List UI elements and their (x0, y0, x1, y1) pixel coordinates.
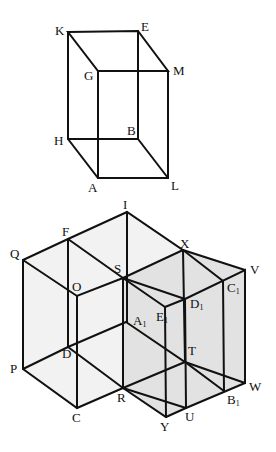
vertex-label-l: L (171, 179, 179, 192)
geometry-figures (0, 0, 276, 452)
vertex-label-o: O (72, 280, 81, 293)
vertex-label-d1: D1 (190, 297, 203, 312)
top-prism (68, 31, 168, 178)
subscript: 1 (236, 399, 240, 408)
vertex-label-r: R (117, 391, 126, 404)
vertex-label-e: E (141, 20, 149, 33)
diagram-canvas: K E G M H B A L I F Q X S V O C1 D1 E1 A… (0, 0, 276, 452)
subscript: 1 (199, 303, 203, 312)
vertex-label-k: K (55, 24, 64, 37)
vertex-label-a1: A1 (133, 314, 146, 329)
vertex-label-y: Y (160, 420, 169, 433)
vertex-label-m: M (173, 64, 185, 77)
vertex-label-i: I (123, 198, 127, 211)
subscript: 1 (142, 320, 146, 329)
vertex-label-x: X (180, 237, 189, 250)
vertex-label-e1-text: E (156, 309, 164, 324)
vertex-label-v: V (250, 263, 259, 276)
vertex-label-a: A (88, 181, 97, 194)
vertex-label-p: P (10, 362, 17, 375)
vertex-label-w: W (249, 380, 261, 393)
vertex-label-s: S (114, 262, 121, 275)
vertex-label-e1: E1 (156, 310, 168, 325)
subscript: 1 (236, 287, 240, 296)
vertex-label-c1: C1 (227, 281, 240, 296)
vertex-label-b1-text: B (227, 392, 236, 407)
vertex-label-d: D (62, 347, 71, 360)
vertex-label-h: H (54, 134, 63, 147)
vertex-label-g: G (84, 69, 93, 82)
vertex-label-b1: B1 (227, 393, 240, 408)
subscript: 1 (164, 316, 168, 325)
vertex-label-a1-text: A (133, 313, 142, 328)
vertex-label-f: F (62, 225, 69, 238)
vertex-label-t: T (188, 344, 196, 357)
vertex-label-c1-text: C (227, 280, 236, 295)
vertex-label-c: C (72, 411, 81, 424)
vertex-label-u: U (185, 410, 194, 423)
vertex-label-b: B (127, 124, 136, 137)
vertex-label-q: Q (10, 247, 19, 260)
vertex-label-d1-text: D (190, 296, 199, 311)
